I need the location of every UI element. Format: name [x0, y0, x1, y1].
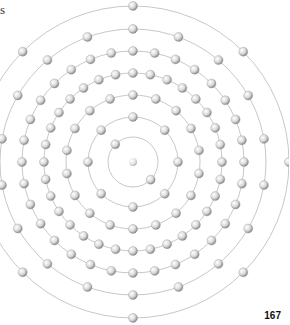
electron-icon: [129, 291, 138, 300]
electron-icon: [0, 134, 7, 143]
electron-icon: [111, 70, 120, 79]
electron-icon: [36, 219, 45, 228]
electron-icon: [285, 158, 290, 167]
electron-icon: [71, 124, 80, 133]
electron-icon: [160, 189, 169, 198]
electron-icon: [129, 203, 138, 212]
electron-icon: [85, 209, 94, 218]
electron-icon: [195, 169, 204, 178]
electron-icon: [163, 240, 172, 249]
electron-icon: [67, 65, 76, 74]
electron-icon: [151, 95, 160, 104]
electron-icon: [67, 250, 76, 259]
electron-icon: [41, 175, 50, 184]
electron-icon: [83, 33, 92, 42]
electron-icon: [146, 245, 155, 254]
electron-icon: [150, 266, 159, 275]
electron-icon: [55, 207, 64, 216]
electron-icon: [18, 47, 27, 56]
electron-icon: [178, 84, 187, 93]
electron-icon: [111, 245, 120, 254]
electron-icon: [203, 108, 212, 117]
electron-icon: [146, 175, 155, 184]
electron-icon: [260, 134, 269, 143]
electron-icon: [129, 113, 138, 122]
electron-icon: [50, 236, 59, 245]
electron-icon: [107, 266, 116, 275]
electron-icon: [207, 236, 216, 245]
electron-icon: [129, 269, 138, 278]
electron-icon: [66, 95, 75, 104]
electron-icon: [26, 115, 35, 124]
electron-icon: [46, 123, 55, 132]
electron-icon: [239, 268, 248, 277]
electron-icon: [129, 69, 138, 78]
electron-icon: [97, 126, 106, 135]
electron-icon: [79, 84, 88, 93]
electron-icon: [151, 221, 160, 230]
electron-icon: [239, 47, 248, 56]
electron-icon: [203, 207, 212, 216]
electron-icon: [55, 108, 64, 117]
electron-icon: [216, 140, 225, 149]
electron-icon: [85, 106, 94, 115]
electron-icon: [260, 181, 269, 190]
electron-icon: [129, 225, 138, 234]
electron-icon: [41, 140, 50, 149]
electron-icon: [214, 259, 223, 268]
electron-icon: [129, 91, 138, 100]
electron-icon: [211, 123, 220, 132]
electron-icon: [94, 75, 103, 84]
electron-icon: [172, 106, 181, 115]
electron-icon: [26, 200, 35, 209]
electron-icon: [150, 49, 159, 58]
electron-icon: [106, 95, 115, 104]
electron-icon: [178, 232, 187, 241]
electron-icon: [207, 79, 216, 88]
electron-icon: [216, 175, 225, 184]
electron-icon: [79, 232, 88, 241]
electron-icon: [244, 91, 253, 100]
electron-icon: [63, 146, 72, 155]
electron-icon: [107, 49, 116, 58]
electron-icon: [237, 179, 246, 188]
electron-icon: [20, 136, 29, 145]
electron-icon: [231, 200, 240, 209]
electron-icon: [94, 240, 103, 249]
electron-icon: [218, 158, 227, 167]
electron-icon: [214, 56, 223, 65]
electron-icon: [190, 250, 199, 259]
electron-icon: [187, 191, 196, 200]
electron-icon: [231, 115, 240, 124]
electron-icon: [129, 2, 138, 11]
electron-icon: [174, 158, 183, 167]
electron-icon: [13, 224, 22, 233]
electron-icon: [18, 158, 27, 167]
electron-icon: [84, 158, 93, 167]
electron-icon: [43, 259, 52, 268]
atom-diagram: [0, 0, 289, 325]
electron-icon: [66, 220, 75, 229]
electron-icon: [86, 260, 95, 269]
electron-icon: [174, 283, 183, 292]
electron-icon: [18, 268, 27, 277]
electron-icon: [20, 179, 29, 188]
electron-icon: [190, 65, 199, 74]
electron-icon: [160, 126, 169, 135]
electron-icon: [191, 220, 200, 229]
electron-icon: [240, 158, 249, 167]
electron-icon: [171, 260, 180, 269]
electron-icon: [0, 181, 7, 190]
electron-icon: [129, 247, 138, 256]
page-number: 167: [264, 310, 281, 321]
electron-icon: [195, 146, 204, 155]
electron-icon: [244, 224, 253, 233]
electron-icon: [43, 56, 52, 65]
electron-icon: [174, 33, 183, 42]
electron-icon: [71, 191, 80, 200]
electron-icon: [221, 96, 230, 105]
electron-icon: [221, 219, 230, 228]
electron-icon: [83, 283, 92, 292]
electron-icon: [171, 55, 180, 64]
electron-icon: [129, 25, 138, 34]
